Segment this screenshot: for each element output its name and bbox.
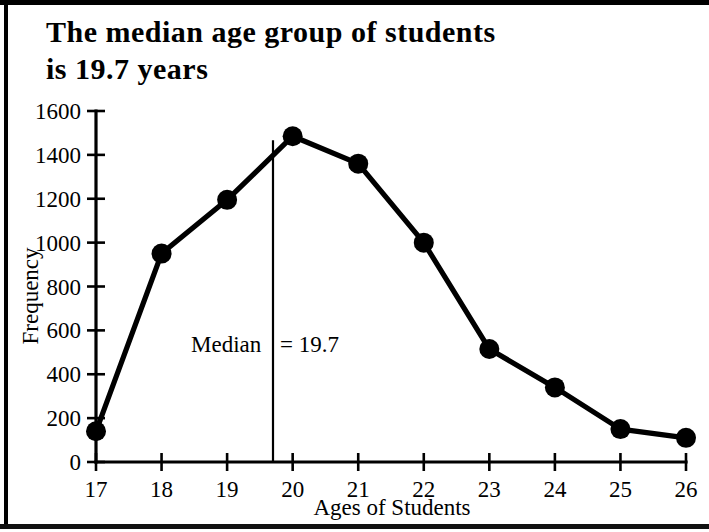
x-tick-label: 20: [281, 477, 304, 502]
x-tick-label: 24: [543, 477, 567, 502]
y-tick-label: 1600: [35, 99, 81, 124]
data-point: [479, 339, 499, 359]
x-tick-label: 17: [85, 477, 108, 502]
data-point: [676, 428, 696, 448]
data-point: [152, 244, 172, 264]
plot-area: 02004006008001000120014001600 1718192021…: [0, 0, 709, 532]
data-point: [610, 419, 630, 439]
x-tick-label: 23: [478, 477, 501, 502]
data-point: [348, 154, 368, 174]
frequency-polyline: [96, 136, 686, 438]
median-annotation-label-right: = 19.7: [280, 332, 339, 357]
median-annotation-label-left: Median: [191, 332, 262, 357]
y-tick-label: 1200: [35, 187, 81, 212]
y-tick-label: 200: [47, 406, 82, 431]
data-point: [283, 126, 303, 146]
x-tick-label: 26: [675, 477, 698, 502]
x-axis-title: Ages of Students: [313, 495, 470, 520]
y-axis-title: Frequency: [18, 247, 43, 345]
data-point: [86, 421, 106, 441]
x-tick-label: 18: [150, 477, 173, 502]
data-point-markers: [86, 126, 696, 448]
y-tick-label: 400: [47, 362, 82, 387]
data-point: [217, 190, 237, 210]
y-tick-label: 600: [47, 318, 82, 343]
y-tick-label: 800: [47, 275, 82, 300]
data-point: [414, 233, 434, 253]
frequency-polygon-svg: 02004006008001000120014001600 1718192021…: [0, 0, 709, 532]
y-tick-label: 0: [70, 450, 82, 475]
x-tick-label: 25: [609, 477, 632, 502]
x-tick-label: 19: [216, 477, 239, 502]
data-point: [545, 377, 565, 397]
figure-page: The median age group of students is 19.7…: [0, 0, 709, 532]
y-tick-label: 1400: [35, 143, 81, 168]
